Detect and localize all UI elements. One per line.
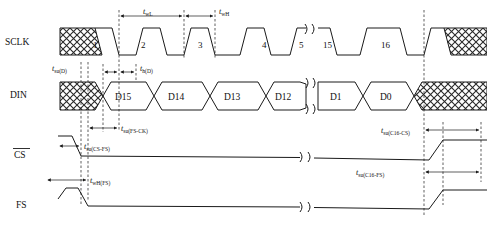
din-label-d12: D12 [275, 92, 292, 102]
clock-cycle-16: 16 [381, 40, 391, 50]
din-dontcare-start [60, 82, 103, 110]
din-label-d13: D13 [224, 92, 241, 102]
fs-waveform-right [314, 190, 487, 209]
clock-cycle-15: 15 [323, 40, 333, 50]
din-label-d1: D1 [330, 92, 342, 102]
timing-label-twh: twH [219, 7, 229, 17]
din-dontcare-end [414, 82, 487, 110]
din-break-symbol [306, 78, 315, 114]
signal-label-fs: FS [16, 200, 27, 210]
timing-label-tsud: tsu(D) [52, 64, 67, 75]
din-label-d15: D15 [115, 92, 132, 102]
signal-label-din: DIN [10, 90, 27, 100]
fs-break-symbol [300, 202, 310, 212]
timing-label-tsuc16cs: tsu(C16-CS) [381, 126, 410, 137]
cs-waveform-right [314, 140, 487, 160]
fs-waveform-left [58, 188, 300, 207]
timing-label-thd: th(D) [140, 64, 153, 75]
timing-diagram-canvas: SCLK DIN CS FS 1 2 3 4 5 15 16 D15 D14 D… [0, 0, 487, 234]
din-label-d0: D0 [380, 92, 392, 102]
clock-cycle-5: 5 [299, 40, 304, 50]
clock-cycle-3: 3 [198, 40, 203, 50]
signal-label-cs: CS [14, 150, 26, 160]
clock-cycle-2: 2 [141, 40, 146, 50]
timing-diagram: SCLK DIN CS FS 1 2 3 4 5 15 16 D15 D14 D… [0, 0, 487, 234]
signal-label-sclk: SCLK [5, 37, 29, 47]
sclk-break-symbol [305, 24, 314, 34]
clock-cycle-4: 4 [262, 40, 267, 50]
din-label-d14: D14 [168, 92, 185, 102]
cs-break-symbol [300, 152, 310, 162]
clock-cycle-1: 1 [93, 40, 98, 50]
timing-label-tsufsck: tsu(FS-CK) [121, 124, 148, 135]
timing-label-twl: twL [143, 7, 153, 17]
timing-label-twhfs: twH(FS) [90, 176, 110, 187]
timing-label-tsuc16fs: tsu(C16-FS) [356, 168, 384, 179]
sclk-dontcare-end [444, 28, 487, 55]
